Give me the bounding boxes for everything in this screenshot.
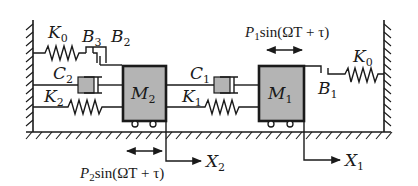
label-force-p2: P2sin(ΩT + τ) <box>79 165 164 183</box>
spring-k0-left <box>33 46 86 60</box>
label-k2: K2 <box>43 86 64 109</box>
label-c2: C2 <box>53 63 73 86</box>
label-k0-left: K0 <box>47 22 68 45</box>
label-force-p1: P1sin(ΩT + τ) <box>244 24 329 42</box>
spring-k0-right <box>335 68 384 82</box>
clearance-b2 <box>100 56 122 65</box>
label-x1: X1 <box>343 150 364 173</box>
displacement-x2-arrow <box>166 121 201 161</box>
clearance-b3 <box>86 47 106 63</box>
label-k1: K1 <box>181 86 202 109</box>
left-wall <box>26 20 33 132</box>
displacement-x1-arrow <box>304 121 340 160</box>
vibration-system-diagram: K0 B3 B2 C2 K2 M2 C1 K1 M1 B1 K0 P1sin(Ω… <box>0 0 418 186</box>
ground <box>26 132 392 139</box>
label-k0-right: K0 <box>352 46 373 69</box>
right-wall <box>384 20 391 132</box>
clearance-b1 <box>304 66 335 74</box>
label-b2: B2 <box>110 26 131 49</box>
label-x2: X2 <box>204 151 225 174</box>
label-b3: B3 <box>81 26 102 49</box>
spring-k1 <box>166 100 258 114</box>
damper-c1 <box>166 77 258 93</box>
label-b1: B1 <box>317 78 338 101</box>
label-c1: C1 <box>190 63 210 86</box>
